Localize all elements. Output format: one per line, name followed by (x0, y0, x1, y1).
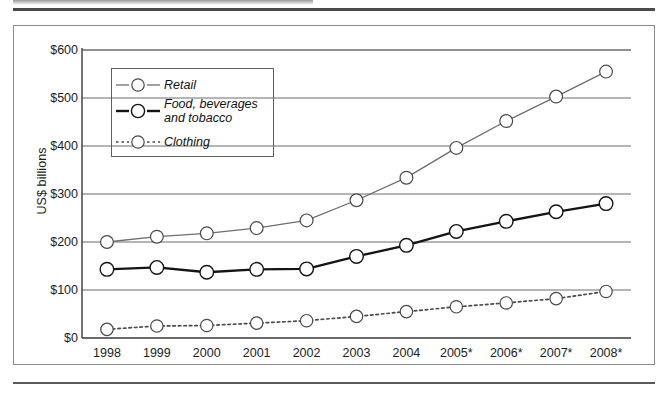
data-point-marker (500, 115, 513, 128)
data-point-marker (600, 285, 612, 297)
data-point-marker (400, 305, 412, 317)
data-point-marker (500, 297, 512, 309)
chart-page: US$ billions $600$500$400$300$200$100$0 … (0, 0, 668, 397)
legend-marker-retail (112, 76, 164, 94)
data-point-marker (150, 261, 164, 275)
data-point-marker (600, 65, 613, 78)
data-point-marker (599, 197, 613, 211)
data-point-marker (151, 320, 163, 332)
data-point-marker (100, 263, 114, 277)
data-point-marker (300, 214, 313, 227)
series-clothing (101, 285, 613, 335)
footer-divider-rule (13, 382, 655, 384)
data-point-marker (200, 265, 214, 279)
data-point-marker (499, 215, 513, 229)
legend-entry-food: Food, beverages and tobacco (112, 101, 258, 121)
data-point-marker (550, 90, 563, 103)
data-point-marker (450, 225, 464, 239)
series-food (100, 197, 613, 279)
legend-entry-clothing: Clothing (112, 132, 210, 152)
legend-entry-retail: Retail (112, 75, 196, 95)
data-point-marker (250, 263, 264, 277)
data-point-marker (200, 227, 213, 240)
data-point-marker (450, 301, 462, 313)
data-point-marker (300, 262, 314, 276)
data-point-marker (549, 205, 563, 219)
data-point-marker (101, 236, 114, 249)
data-point-marker (550, 292, 562, 304)
data-point-marker (450, 142, 463, 155)
legend-label-food: Food, beverages and tobacco (164, 97, 258, 125)
data-point-marker (250, 317, 262, 329)
data-point-marker (350, 194, 363, 207)
data-point-marker (101, 323, 113, 335)
legend-marker-food (112, 102, 164, 120)
legend-label-clothing: Clothing (164, 135, 210, 149)
data-point-marker (300, 315, 312, 327)
data-point-marker (400, 239, 414, 253)
data-point-marker (201, 319, 213, 331)
data-point-marker (350, 310, 362, 322)
truncated-header-text (13, 0, 313, 5)
figure-frame: US$ billions $600$500$400$300$200$100$0 … (13, 25, 655, 365)
legend-marker-clothing (112, 133, 164, 151)
legend-label-retail: Retail (164, 78, 196, 92)
data-point-marker (250, 222, 263, 235)
data-point-marker (350, 250, 364, 264)
chart-legend: Retail Food, beverages and tobacco (111, 68, 274, 157)
data-point-marker (150, 230, 163, 243)
data-point-marker (400, 171, 413, 184)
header-divider-rule (13, 8, 655, 11)
